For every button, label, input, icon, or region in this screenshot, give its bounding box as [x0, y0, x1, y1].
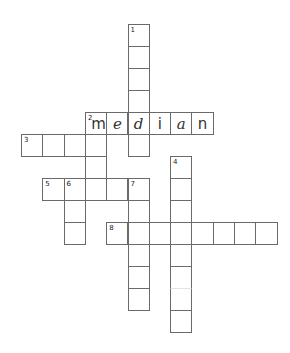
cell-letter: m	[91, 115, 106, 133]
crossword-cell[interactable]	[64, 134, 86, 157]
crossword-cell[interactable]	[64, 222, 86, 245]
crossword-cell[interactable]	[213, 222, 235, 245]
crossword-cell[interactable]	[170, 288, 192, 311]
crossword-cell[interactable]: 1	[128, 24, 150, 47]
crossword-cell[interactable]: 8	[106, 222, 128, 245]
crossword-cell[interactable]: a	[170, 112, 192, 135]
crossword-cell[interactable]: 6	[64, 178, 86, 201]
crossword-cell[interactable]	[85, 134, 107, 157]
cell-letter: a	[171, 115, 191, 133]
cell-letter: i	[150, 115, 170, 133]
crossword-cell[interactable]: e	[106, 112, 128, 135]
cell-letter: d	[129, 115, 149, 133]
crossword-cell[interactable]: i	[149, 112, 171, 135]
crossword-cell[interactable]	[106, 178, 128, 201]
crossword-cell[interactable]	[128, 46, 150, 69]
cell-letter: n	[192, 115, 212, 133]
crossword-cell[interactable]	[128, 134, 150, 157]
clue-number: 5	[45, 180, 49, 188]
clue-number: 4	[173, 158, 177, 166]
crossword-cell[interactable]	[170, 178, 192, 201]
crossword-cell[interactable]	[234, 222, 256, 245]
crossword-cell[interactable]	[170, 222, 192, 245]
clue-number: 7	[131, 180, 135, 188]
crossword-cell[interactable]	[255, 222, 277, 245]
crossword-cell[interactable]: 4	[170, 156, 192, 179]
crossword-cell[interactable]	[149, 222, 171, 245]
crossword-cell[interactable]	[170, 266, 192, 289]
crossword-cell[interactable]	[128, 244, 150, 267]
crossword-cell[interactable]: 7	[128, 178, 150, 201]
crossword-cell[interactable]	[170, 200, 192, 223]
crossword-cell[interactable]	[170, 310, 192, 333]
crossword-cell[interactable]	[85, 156, 107, 179]
clue-number: 6	[67, 180, 71, 188]
crossword-cell[interactable]	[128, 90, 150, 113]
crossword-cell[interactable]	[128, 200, 150, 223]
cell-letter: e	[107, 115, 127, 133]
crossword-cell[interactable]: n	[191, 112, 213, 135]
crossword-cell[interactable]	[128, 266, 150, 289]
clue-number: 8	[109, 224, 113, 232]
crossword-cell[interactable]	[64, 200, 86, 223]
crossword-cell[interactable]: 2m	[85, 112, 107, 135]
clue-number: 3	[24, 136, 28, 144]
crossword-cell[interactable]	[128, 222, 150, 245]
crossword-cell[interactable]	[85, 178, 107, 201]
crossword-cell[interactable]	[128, 288, 150, 311]
crossword-cell[interactable]	[42, 134, 64, 157]
crossword-cell[interactable]	[170, 244, 192, 267]
clue-number: 1	[131, 26, 135, 34]
crossword-cell[interactable]	[191, 222, 213, 245]
crossword-cell[interactable]: d	[128, 112, 150, 135]
crossword-cell[interactable]: 5	[42, 178, 64, 201]
crossword-cell[interactable]: 3	[21, 134, 43, 157]
crossword-cell[interactable]	[128, 68, 150, 91]
crossword-grid: 1d2meian345678	[0, 0, 290, 353]
